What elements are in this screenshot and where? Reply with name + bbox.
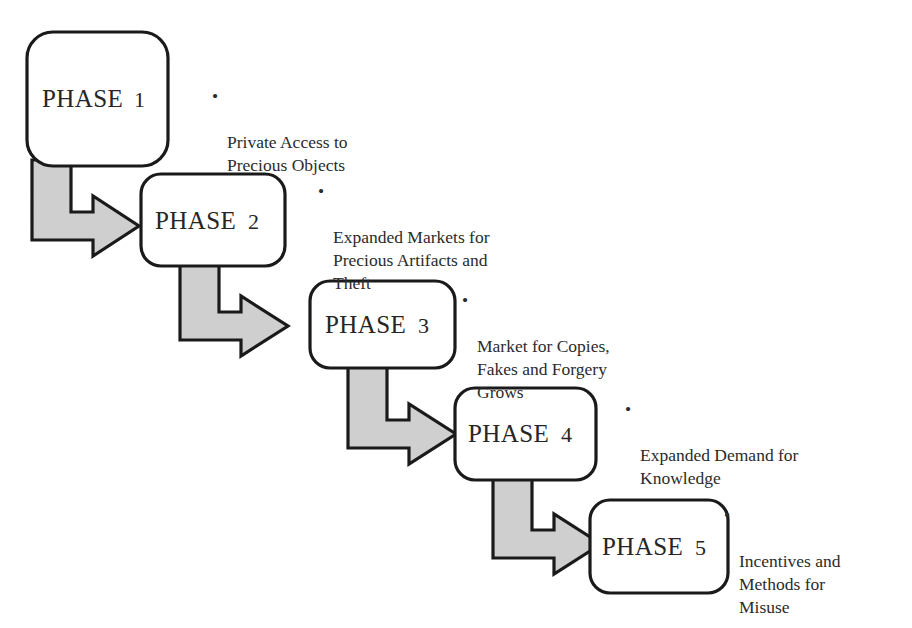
bullet-phase-3-text: Market for Copies, Fakes and Forgery Gro… xyxy=(477,335,610,404)
bullet-dot-icon: • xyxy=(318,180,332,203)
bullet-phase-5: • Incentives and Methods for Misuse xyxy=(724,504,841,628)
arrow-phase-1-to-phase-2 xyxy=(32,160,139,256)
bullet-phase-1-text: Private Access to Precious Objects xyxy=(227,131,348,177)
bullet-phase-4: • Expanded Demand for Knowledge xyxy=(625,398,798,513)
bullet-dot-icon: • xyxy=(724,504,738,527)
phase-box-phase-5[interactable]: PHASE 5 xyxy=(590,500,728,593)
bullet-phase-4-text: Expanded Demand for Knowledge xyxy=(640,444,798,490)
bullet-dot-icon: • xyxy=(212,85,226,108)
phase-2-number: 2 xyxy=(248,209,259,234)
phase-1-label: PHASE xyxy=(42,85,123,112)
phase-5-label: PHASE xyxy=(602,533,683,560)
bullet-phase-2-text: Expanded Markets for Precious Artifacts … xyxy=(333,226,489,295)
bullet-dot-icon: • xyxy=(462,289,476,312)
phase-flow-diagram: PHASE 1 PHASE 2 PHASE 3 PHASE 4 PHASE 5 … xyxy=(0,0,912,628)
bullet-phase-5-text: Incentives and Methods for Misuse xyxy=(739,550,841,619)
bullet-phase-3: • Market for Copies, Fakes and Forgery G… xyxy=(462,289,610,427)
phase-box-phase-1[interactable]: PHASE 1 xyxy=(27,32,168,166)
arrow-phase-4-to-phase-5 xyxy=(493,476,601,574)
phase-2-label: PHASE xyxy=(155,207,236,234)
phase-1-number: 1 xyxy=(134,87,145,112)
bullet-dot-icon: • xyxy=(625,398,639,421)
phase-5-number: 5 xyxy=(695,535,706,560)
arrow-phase-3-to-phase-4 xyxy=(348,364,456,464)
arrow-phase-2-to-phase-3 xyxy=(180,262,288,356)
